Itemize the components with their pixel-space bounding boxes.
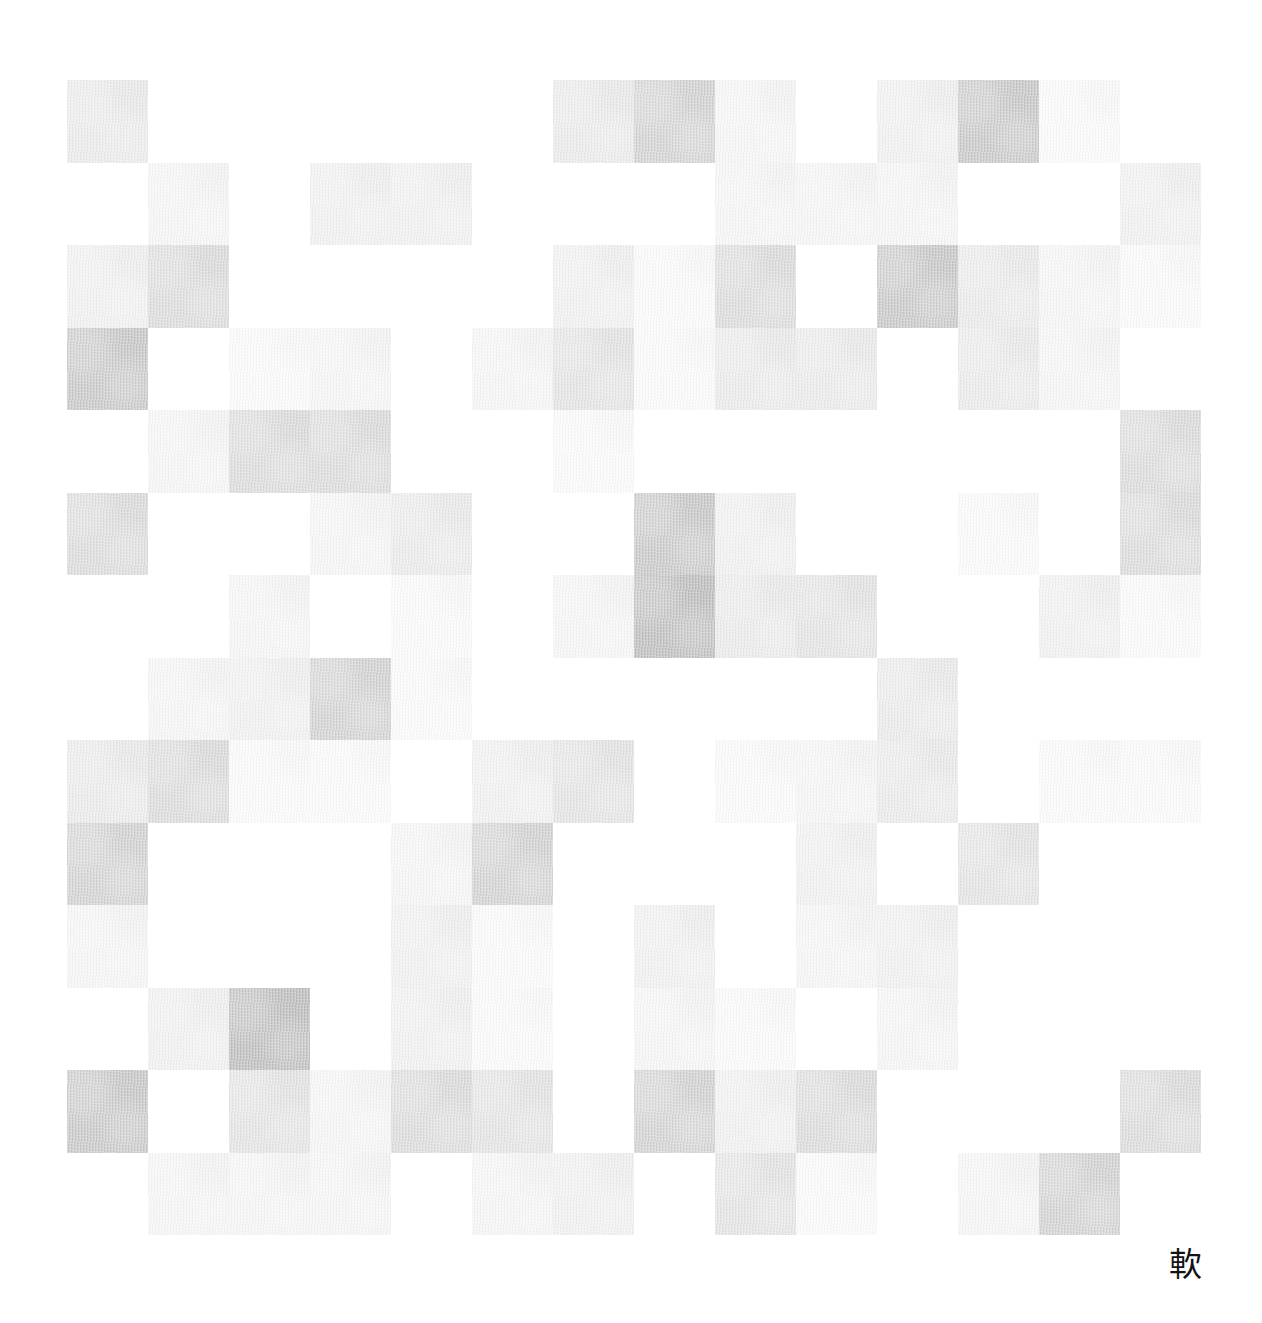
mosaic-cell [634, 328, 715, 411]
mosaic-cell [553, 1153, 634, 1236]
mosaic-cell [67, 905, 148, 988]
mosaic-cell [148, 80, 229, 163]
mosaic-cell [715, 163, 796, 246]
mosaic-cell [796, 163, 877, 246]
mosaic-cell [391, 740, 472, 823]
mosaic-cell [958, 823, 1039, 906]
mosaic-cell [634, 740, 715, 823]
mosaic-cell [1039, 740, 1120, 823]
mosaic-cell [877, 740, 958, 823]
mosaic-cell [958, 163, 1039, 246]
mosaic-cell [229, 493, 310, 576]
mosaic-cell [1120, 905, 1201, 988]
mosaic-cell [229, 740, 310, 823]
mosaic-cell [310, 493, 391, 576]
mosaic-cell [1039, 658, 1120, 741]
mosaic-cell [67, 493, 148, 576]
mosaic-cell [958, 658, 1039, 741]
mosaic-cell [148, 245, 229, 328]
mosaic-cell [1120, 575, 1201, 658]
artwork-canvas: 軟 [0, 0, 1262, 1323]
mosaic-cell [1120, 740, 1201, 823]
mosaic-cell [958, 1153, 1039, 1236]
mosaic-cell [877, 823, 958, 906]
mosaic-cell [1039, 988, 1120, 1071]
mosaic-cell [877, 410, 958, 493]
mosaic-cell [1039, 493, 1120, 576]
mosaic-cell [877, 1070, 958, 1153]
mosaic-cell [634, 1070, 715, 1153]
mosaic-cell [1120, 658, 1201, 741]
mosaic-cell [67, 328, 148, 411]
mosaic-cell [715, 823, 796, 906]
mosaic-cell [715, 80, 796, 163]
mosaic-cell [472, 1070, 553, 1153]
mosaic-cell [1120, 328, 1201, 411]
mosaic-cell [553, 823, 634, 906]
mosaic-cell [796, 905, 877, 988]
mosaic-cell [310, 575, 391, 658]
mosaic-cell [472, 245, 553, 328]
mosaic-cell [634, 163, 715, 246]
mosaic-cell [1120, 410, 1201, 493]
mosaic-cell [877, 1153, 958, 1236]
mosaic-cell [634, 245, 715, 328]
mosaic-cell [796, 328, 877, 411]
mosaic-cell [472, 740, 553, 823]
mosaic-cell [634, 493, 715, 576]
mosaic-cell [715, 1070, 796, 1153]
mosaic-cell [310, 658, 391, 741]
mosaic-cell [310, 245, 391, 328]
mosaic-cell [310, 328, 391, 411]
mosaic-cell [148, 1070, 229, 1153]
mosaic-cell [229, 905, 310, 988]
mosaic-cell [67, 575, 148, 658]
mosaic-cell [796, 823, 877, 906]
mosaic-cell [877, 905, 958, 988]
mosaic-cell [310, 410, 391, 493]
mosaic-cell [715, 740, 796, 823]
mosaic-cell [472, 575, 553, 658]
mosaic-cell [391, 823, 472, 906]
mosaic-cell [715, 493, 796, 576]
mosaic-cell [877, 80, 958, 163]
mosaic-cell [877, 658, 958, 741]
mosaic-cell [715, 905, 796, 988]
mosaic-cell [67, 1153, 148, 1236]
mosaic-cell [148, 328, 229, 411]
mosaic-cell [148, 905, 229, 988]
mosaic-cell [67, 245, 148, 328]
mosaic-cell [67, 1070, 148, 1153]
mosaic-cell [1039, 410, 1120, 493]
mosaic-cell [958, 328, 1039, 411]
mosaic-cell [148, 163, 229, 246]
mosaic-cell [634, 1153, 715, 1236]
mosaic-cell [310, 1153, 391, 1236]
mosaic-cell [391, 493, 472, 576]
mosaic-cell [958, 410, 1039, 493]
mosaic-cell [958, 245, 1039, 328]
mosaic-cell [796, 493, 877, 576]
mosaic-cell [229, 1153, 310, 1236]
mosaic-cell [148, 575, 229, 658]
mosaic-cell [796, 410, 877, 493]
mosaic-cell [310, 740, 391, 823]
mosaic-cell [715, 1153, 796, 1236]
mosaic-cell [148, 1153, 229, 1236]
mosaic-cell [1120, 163, 1201, 246]
mosaic-cell [553, 80, 634, 163]
mosaic-cell [472, 988, 553, 1071]
mosaic-cell [310, 80, 391, 163]
mosaic-cell [877, 575, 958, 658]
mosaic-cell [1039, 245, 1120, 328]
mosaic-cell [1120, 1070, 1201, 1153]
mosaic-cell [634, 80, 715, 163]
mosaic-cell [715, 988, 796, 1071]
mosaic-cell [553, 163, 634, 246]
mosaic-cell [67, 988, 148, 1071]
mosaic-cell [391, 988, 472, 1071]
mosaic-cell [472, 410, 553, 493]
mosaic-cell [472, 493, 553, 576]
mosaic-cell [634, 823, 715, 906]
mosaic-cell [148, 410, 229, 493]
